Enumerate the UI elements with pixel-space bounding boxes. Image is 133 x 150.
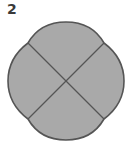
quartered-circle-diagram (0, 0, 133, 150)
